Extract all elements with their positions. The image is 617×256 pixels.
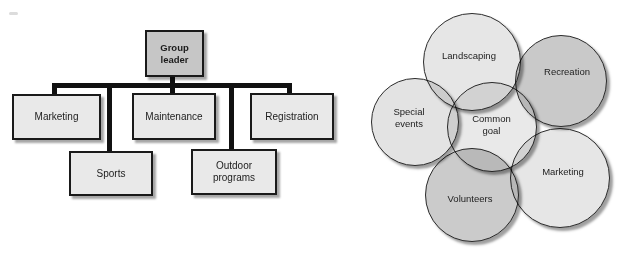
org-node-label: Outdoor programs <box>202 160 266 184</box>
org-node-maintenance: Maintenance <box>132 93 216 140</box>
org-node-label: Group leader <box>154 42 196 65</box>
connector-drop-outdoor-programs <box>229 85 234 151</box>
venn-circle-special-events <box>371 78 459 166</box>
org-node-registration: Registration <box>250 93 334 140</box>
org-node-group-leader: Group leader <box>145 30 204 77</box>
venn-circle-volunteers <box>425 148 519 242</box>
org-node-marketing: Marketing <box>12 94 101 140</box>
org-chart: Group leader Marketing Maintenance Regis… <box>0 0 340 256</box>
org-node-label: Registration <box>265 111 318 123</box>
org-node-label: Sports <box>97 168 126 180</box>
connector-drop-sports <box>107 85 112 153</box>
venn-circle-marketing <box>510 128 610 228</box>
org-node-label: Maintenance <box>145 111 202 123</box>
figure-canvas: Group leader Marketing Maintenance Regis… <box>0 0 617 256</box>
venn-diagram: Landscaping Recreation Special events Co… <box>340 0 617 256</box>
org-node-outdoor-programs: Outdoor programs <box>191 149 277 195</box>
org-node-label: Marketing <box>35 111 79 123</box>
org-node-sports: Sports <box>69 151 153 196</box>
